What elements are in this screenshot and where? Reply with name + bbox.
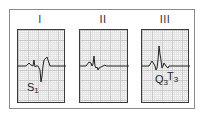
ecg-panel-lead-i bbox=[17, 29, 65, 103]
annotation-t3: T3 bbox=[167, 71, 178, 84]
annotation-s1: S1 bbox=[27, 82, 39, 95]
lead-label-iii: III bbox=[160, 13, 171, 25]
lead-label-ii: II bbox=[99, 13, 106, 25]
ecg-panel-lead-iii bbox=[141, 29, 189, 103]
ecg-panel-lead-ii bbox=[79, 29, 128, 103]
lead-label-i: I bbox=[38, 13, 42, 25]
ecg-trace-lead-ii bbox=[80, 30, 129, 104]
ecg-trace-lead-i bbox=[18, 30, 66, 104]
ecg-trace-lead-iii bbox=[142, 30, 190, 104]
